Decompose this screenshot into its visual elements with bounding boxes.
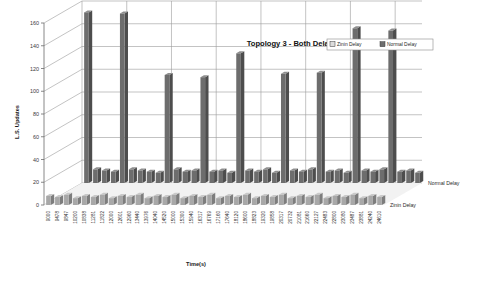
bar-zinin-delay <box>118 194 126 205</box>
bar-normal-delay <box>84 10 92 183</box>
bar-front <box>308 169 313 183</box>
bar-normal-delay <box>254 170 262 183</box>
legend-label-zinin-delay: Zinin Delay <box>337 42 362 47</box>
chart-legend[interactable]: Zinin Delay Normal Delay <box>327 39 433 50</box>
bar-front <box>252 198 257 205</box>
bar-front <box>165 75 170 183</box>
bar-front <box>147 172 152 183</box>
bar-zinin-delay <box>55 195 63 205</box>
bar-front <box>198 197 203 205</box>
bar-zinin-delay <box>162 195 170 205</box>
bar-front <box>218 170 223 183</box>
bar-front <box>129 169 134 183</box>
bar-front <box>91 197 96 205</box>
x-tick-label: 12000 <box>109 211 114 224</box>
bar-side <box>125 12 128 183</box>
bar-zinin-delay <box>270 195 278 205</box>
bar-zinin-delay <box>109 196 117 205</box>
bar-front <box>174 169 179 183</box>
bar-normal-delay <box>263 167 271 183</box>
bar-zinin-delay <box>73 196 81 205</box>
bar-front <box>162 197 167 205</box>
bar-front <box>227 173 232 183</box>
bar-side <box>232 171 235 183</box>
bar-normal-delay <box>406 168 414 183</box>
bar-side <box>384 167 387 183</box>
bar-zinin-delay <box>332 194 340 205</box>
chart-container: 020406080100120140160 900094789847102001… <box>0 0 482 289</box>
bar-normal-delay <box>165 73 173 183</box>
x-tick-label: 14040 <box>153 211 158 224</box>
x-tick-label: 12601 <box>118 211 123 224</box>
bar-zinin-delay <box>252 196 260 205</box>
bar-zinin-delay <box>64 193 72 205</box>
bar-front <box>324 198 329 205</box>
bar-normal-delay <box>227 171 235 183</box>
bar-side <box>295 168 298 183</box>
bar-normal-delay <box>317 71 325 183</box>
bar-normal-delay <box>102 168 110 183</box>
bar-zinin-delay <box>180 196 188 205</box>
bar-normal-delay <box>281 72 289 183</box>
bar-side <box>321 71 324 183</box>
bar-front <box>183 172 188 183</box>
bar-side <box>411 168 414 183</box>
x-tick-label: 9847 <box>64 211 69 222</box>
bar-front <box>209 172 214 183</box>
bar-normal-delay <box>120 12 128 183</box>
bar-side <box>140 193 143 205</box>
bar-front <box>127 197 132 205</box>
x-tick-label: 16769 <box>207 211 212 224</box>
x-tick-label: 20732 <box>288 211 293 224</box>
bar-side <box>304 170 307 183</box>
bar-side <box>259 170 262 183</box>
bar-front <box>216 198 221 205</box>
bar-zinin-delay <box>127 195 135 205</box>
bar-normal-delay <box>156 171 164 183</box>
bar-front <box>192 170 197 183</box>
bar-front <box>272 173 277 183</box>
bar-front <box>189 196 194 205</box>
bar-zinin-delay <box>368 194 376 205</box>
depth-label-normal-delay: Normal Delay <box>428 180 460 186</box>
bar-front <box>406 170 411 183</box>
chart-title: Topology 3 - Both Delays <box>247 39 338 48</box>
bar-side <box>223 168 226 183</box>
bar-normal-delay <box>192 168 200 183</box>
bar-front <box>326 172 331 183</box>
bar-front <box>353 28 358 183</box>
x-tick-label: 21081 <box>297 211 302 224</box>
x-tick-label: 18600 <box>243 211 248 224</box>
bar-zinin-delay <box>234 195 242 205</box>
bar-side <box>348 171 351 183</box>
bar-normal-delay <box>129 167 137 183</box>
bar-front <box>388 31 393 183</box>
bar-side <box>375 170 378 183</box>
bar-side <box>402 170 405 183</box>
bar-zinin-delay <box>243 193 251 205</box>
bar-front <box>243 195 248 205</box>
x-tick-label: 18823 <box>252 211 257 224</box>
bar-zinin-delay <box>207 193 215 205</box>
x-tick-label: 20317 <box>279 211 284 224</box>
bar-zinin-delay <box>100 193 108 205</box>
bar-front <box>234 197 239 205</box>
x-tick-label: 15000 <box>171 211 176 224</box>
bar-front <box>270 197 275 205</box>
bar-front <box>100 195 105 205</box>
bar-side <box>339 168 342 183</box>
bar-zinin-delay <box>46 194 54 205</box>
bar-side <box>69 193 72 205</box>
x-tick-label: 13440 <box>135 211 140 224</box>
x-tick-label: 10200 <box>73 211 78 224</box>
bar-side <box>89 10 92 183</box>
bar-side <box>142 168 145 183</box>
bar-normal-delay <box>93 167 101 183</box>
bar-front <box>138 170 143 183</box>
y-tick-label: 80 <box>33 111 39 117</box>
x-tick-label: 14520 <box>162 211 167 224</box>
bar-front <box>370 172 375 183</box>
bar-side <box>98 167 101 183</box>
bar-front <box>154 196 159 205</box>
x-tick-label: 10838 <box>82 211 87 224</box>
